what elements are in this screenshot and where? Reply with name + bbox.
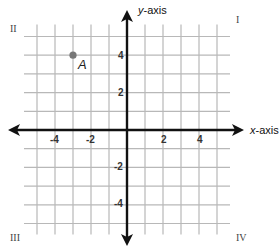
y-tick-neg4: -4 [114, 198, 123, 209]
x-tick-4: 4 [197, 134, 203, 145]
quadrant-label-i: I [236, 14, 239, 25]
x-axis-suffix: -axis [256, 124, 279, 136]
y-axis-suffix: -axis [144, 4, 167, 16]
y-tick-4: 4 [118, 50, 124, 61]
x-axis-label: x-axis [250, 124, 279, 136]
point-a-label: A [78, 57, 87, 72]
y-tick-neg2: -2 [114, 161, 123, 172]
x-tick-neg4: -4 [50, 134, 59, 145]
point-a-marker [69, 52, 76, 59]
quadrant-label-iv: IV [236, 232, 247, 243]
quadrant-label-iii: III [10, 232, 20, 243]
x-tick-2: 2 [161, 134, 167, 145]
x-tick-neg2: -2 [86, 134, 95, 145]
axes [8, 10, 244, 246]
y-tick-2: 2 [118, 87, 124, 98]
y-axis-label: y-axis [138, 4, 167, 16]
quadrant-label-ii: II [10, 23, 17, 34]
coordinate-plane [0, 0, 280, 246]
